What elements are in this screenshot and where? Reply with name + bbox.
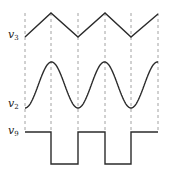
sine-wave-v2 <box>25 62 158 108</box>
signal-label-v2: v2 <box>8 98 19 111</box>
waveform-diagram <box>0 0 169 176</box>
triangle-wave-v3 <box>25 13 158 37</box>
signal-label-v3: v3 <box>8 29 19 42</box>
square-wave-v9 <box>25 132 158 164</box>
signal-label-v9: v9 <box>8 125 19 138</box>
